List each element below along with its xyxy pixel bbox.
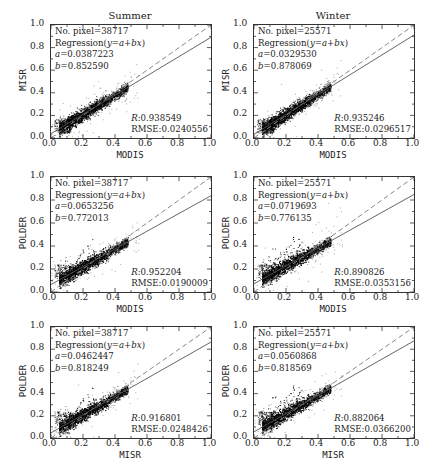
stats-bottom-right: R:0.952204 RMSE:0.0190009: [131, 267, 208, 290]
x-tick-label: 0.6: [341, 438, 355, 448]
coef-a-label: a=0.0387223: [55, 49, 145, 61]
npixel-label: No. pixel=38717: [55, 26, 145, 38]
r-label: R:0.916801: [131, 413, 208, 425]
x-tick-label: 0.6: [341, 292, 355, 302]
y-tick-label: 1.0: [30, 18, 44, 28]
coef-a-label: a=0.0560868: [258, 351, 348, 363]
rmse-label: RMSE:0.0366200: [334, 424, 411, 436]
stats-top-left: No. pixel=38717 Regression(y=a+bx) a=0.0…: [55, 26, 145, 72]
x-tick-label: 0.8: [373, 138, 387, 148]
x-tick-label: 0.4: [309, 138, 323, 148]
x-tick-label: 0.2: [74, 292, 88, 302]
x-tick-label: 0.4: [106, 138, 120, 148]
stats-bottom-right: R:0.935246 RMSE:0.0296517: [334, 113, 411, 136]
plot-area: No. pixel=25571 Regression(y=a+bx) a=0.0…: [253, 24, 415, 139]
x-tick-label: 0.4: [106, 438, 120, 448]
x-tick-label: 0.4: [106, 292, 120, 302]
plot-area: No. pixel=38717 Regression(y=a+bx) a=0.0…: [50, 176, 212, 293]
coef-a-label: a=0.0653256: [55, 201, 145, 213]
y-tick-label: 0.2: [30, 262, 44, 272]
y-axis-label: POLDER: [18, 356, 28, 406]
x-tick-label: 0.8: [373, 438, 387, 448]
y-tick-label: 0.8: [30, 193, 44, 203]
y-tick-label: 0.2: [233, 409, 247, 419]
npixel-label: No. pixel=38717: [55, 178, 145, 190]
y-axis-label: MISR: [221, 55, 231, 105]
coef-b-label: b=0.818569: [258, 363, 348, 375]
r-label: R:0.882064: [334, 413, 411, 425]
x-tick-label: 1.0: [202, 292, 216, 302]
y-tick-label: 0.2: [30, 108, 44, 118]
y-tick-label: 1.0: [233, 170, 247, 180]
x-tick-label: 0.8: [170, 292, 184, 302]
stats-top-left: No. pixel=25571 Regression(y=a+bx) a=0.0…: [258, 178, 348, 224]
x-tick-label: 0.2: [74, 438, 88, 448]
y-tick-label: 0.4: [30, 239, 44, 249]
y-tick-label: 0.0: [30, 431, 44, 441]
stats-top-left: No. pixel=25571 Regression(y=a+bx) a=0.0…: [258, 328, 348, 374]
rmse-label: RMSE:0.0353156: [334, 278, 411, 290]
stats-bottom-right: R:0.938549 RMSE:0.0240556: [131, 113, 208, 136]
npixel-label: No. pixel=25571: [258, 26, 348, 38]
x-tick-label: 0.4: [309, 292, 323, 302]
coef-a-label: a=0.0719693: [258, 201, 348, 213]
coef-b-label: b=0.878069: [258, 61, 348, 73]
x-axis-label: MODIS: [50, 150, 210, 160]
plot-area: No. pixel=38717 Regression(y=a+bx) a=0.0…: [50, 24, 212, 139]
npixel-label: No. pixel=25571: [258, 328, 348, 340]
r-label: R:0.938549: [131, 113, 208, 125]
x-tick-label: 0.6: [341, 138, 355, 148]
x-axis-label: MODIS: [50, 304, 210, 314]
x-axis-label: MISR: [253, 450, 413, 460]
regression-label: Regression(y=a+bx): [258, 340, 348, 352]
y-tick-label: 0.0: [233, 431, 247, 441]
stats-bottom-right: R:0.890826 RMSE:0.0353156: [334, 267, 411, 290]
y-tick-label: 1.0: [233, 18, 247, 28]
y-axis-label: POLDER: [18, 208, 28, 258]
regression-label: Regression(y=a+bx): [258, 38, 348, 50]
x-tick-label: 0.2: [277, 438, 291, 448]
y-tick-label: 0.6: [30, 364, 44, 374]
stats-bottom-right: R:0.882064 RMSE:0.0366200: [334, 413, 411, 436]
y-tick-label: 1.0: [233, 320, 247, 330]
y-tick-label: 0.4: [233, 387, 247, 397]
x-tick-label: 1.0: [405, 292, 419, 302]
panel-title: Winter: [253, 10, 413, 21]
x-tick-label: 0.8: [170, 138, 184, 148]
x-axis-label: MISR: [50, 450, 210, 460]
x-tick-label: 0.6: [138, 438, 152, 448]
y-tick-label: 0.8: [233, 193, 247, 203]
x-tick-label: 0.6: [138, 138, 152, 148]
rmse-label: RMSE:0.0296517: [334, 124, 411, 136]
y-axis-label: POLDER: [221, 208, 231, 258]
coef-a-label: a=0.0462447: [55, 351, 145, 363]
coef-b-label: b=0.818249: [55, 363, 145, 375]
y-tick-label: 0.6: [233, 216, 247, 226]
x-axis-label: MODIS: [253, 150, 413, 160]
plot-area: No. pixel=25571 Regression(y=a+bx) a=0.0…: [253, 326, 415, 439]
x-tick-label: 0.2: [74, 138, 88, 148]
y-tick-label: 1.0: [30, 320, 44, 330]
y-tick-label: 0.6: [233, 364, 247, 374]
npixel-label: No. pixel=38717: [55, 328, 145, 340]
x-tick-label: 1.0: [405, 138, 419, 148]
r-label: R:0.935246: [334, 113, 411, 125]
stats-top-left: No. pixel=38717 Regression(y=a+bx) a=0.0…: [55, 328, 145, 374]
y-tick-label: 0.0: [233, 131, 247, 141]
x-tick-label: 0.2: [277, 138, 291, 148]
r-label: R:0.952204: [131, 267, 208, 279]
coef-b-label: b=0.776135: [258, 213, 348, 225]
y-tick-label: 0.8: [30, 342, 44, 352]
r-label: R:0.890826: [334, 267, 411, 279]
stats-top-left: No. pixel=25571 Regression(y=a+bx) a=0.0…: [258, 26, 348, 72]
coef-b-label: b=0.772013: [55, 213, 145, 225]
rmse-label: RMSE:0.0240556: [131, 124, 208, 136]
y-tick-label: 1.0: [30, 170, 44, 180]
x-tick-label: 0.2: [277, 292, 291, 302]
y-tick-label: 0.0: [233, 285, 247, 295]
y-tick-label: 0.8: [233, 342, 247, 352]
y-tick-label: 0.2: [30, 409, 44, 419]
regression-label: Regression(y=a+bx): [55, 190, 145, 202]
x-tick-label: 0.8: [170, 438, 184, 448]
y-tick-label: 0.4: [30, 86, 44, 96]
